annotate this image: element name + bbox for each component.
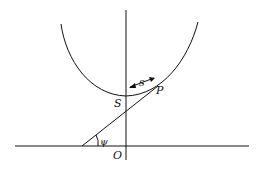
arrowhead-left-icon bbox=[129, 83, 136, 88]
label-P: P bbox=[155, 84, 164, 97]
tangent-line bbox=[82, 86, 158, 146]
angle-arc bbox=[96, 135, 98, 146]
label-O: O bbox=[113, 149, 122, 162]
label-s: s bbox=[139, 76, 145, 89]
label-S: S bbox=[114, 97, 122, 110]
curve bbox=[61, 22, 198, 96]
diagram-canvas: s S P ψ O bbox=[0, 0, 259, 175]
label-psi: ψ bbox=[100, 136, 108, 147]
